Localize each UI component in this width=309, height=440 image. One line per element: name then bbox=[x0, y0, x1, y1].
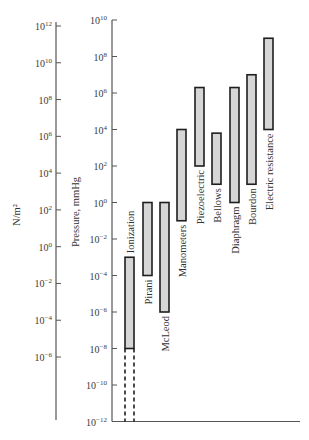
bar-electric-resistance: Electric resistance bbox=[264, 38, 275, 210]
bar-label: Electric resistance bbox=[264, 133, 275, 210]
tick-label: 10−4 bbox=[90, 270, 108, 282]
tick-label: 10−12 bbox=[86, 416, 107, 428]
tick-label: 10−6 bbox=[35, 351, 53, 363]
bar-label: Piezoelectric bbox=[195, 170, 206, 225]
tick-label: 10−2 bbox=[90, 233, 108, 245]
tick-label: 10−6 bbox=[90, 306, 108, 318]
tick-label: 1010 bbox=[35, 57, 53, 69]
tick-label: 1012 bbox=[35, 20, 53, 32]
bar-piezoelectric: Piezoelectric bbox=[195, 88, 206, 225]
tick-label: 10−4 bbox=[35, 314, 53, 326]
bar-diaphragm: Diaphragm bbox=[230, 88, 241, 254]
bar-ionization: Ionization bbox=[125, 210, 136, 349]
bar-pirani: Pirani bbox=[143, 203, 154, 305]
bar-label: Ionization bbox=[125, 210, 136, 253]
tick-label: 1010 bbox=[90, 14, 108, 26]
gauge-range-bars: IonizationPiraniMcLeodManometersPiezoele… bbox=[125, 38, 275, 421]
bar-mcleod: McLeod bbox=[160, 203, 171, 352]
tick-label: 108 bbox=[94, 51, 108, 63]
tick-label: 100 bbox=[94, 197, 108, 209]
tick-label: 10−2 bbox=[35, 277, 53, 289]
tick-label: 10−8 bbox=[90, 343, 108, 355]
bar-bourdon: Bourdon bbox=[247, 75, 258, 225]
left-axis-n-per-m2: 1012101010810610410210010−210−410−6 bbox=[35, 20, 61, 420]
pressure-gauge-range-chart: 1012101010810610410210010−210−410−6 1010… bbox=[0, 0, 309, 440]
bar-label: Bellows bbox=[212, 188, 223, 222]
tick-label: 106 bbox=[94, 87, 108, 99]
tick-label: 108 bbox=[39, 94, 53, 106]
bar-label: Pirani bbox=[143, 279, 154, 304]
bar-label: Bourdon bbox=[247, 188, 258, 226]
bar-label: McLeod bbox=[160, 315, 171, 351]
tick-label: 102 bbox=[94, 160, 108, 172]
tick-label: 100 bbox=[39, 241, 53, 253]
tick-label: 102 bbox=[39, 204, 53, 216]
tick-label: 106 bbox=[39, 130, 53, 142]
bar-manometers: Manometers bbox=[177, 130, 188, 278]
bar-bellows: Bellows bbox=[212, 133, 223, 223]
bar-extension-dashed bbox=[125, 349, 134, 422]
right-axis-title: Pressure, mmHg bbox=[70, 176, 81, 247]
bar-label: Diaphragm bbox=[230, 207, 241, 254]
tick-label: 104 bbox=[94, 124, 108, 136]
bar-label: Manometers bbox=[177, 225, 188, 278]
tick-label: 104 bbox=[39, 167, 53, 179]
left-axis-title: N/m² bbox=[11, 204, 22, 226]
tick-label: 10−10 bbox=[86, 379, 107, 391]
